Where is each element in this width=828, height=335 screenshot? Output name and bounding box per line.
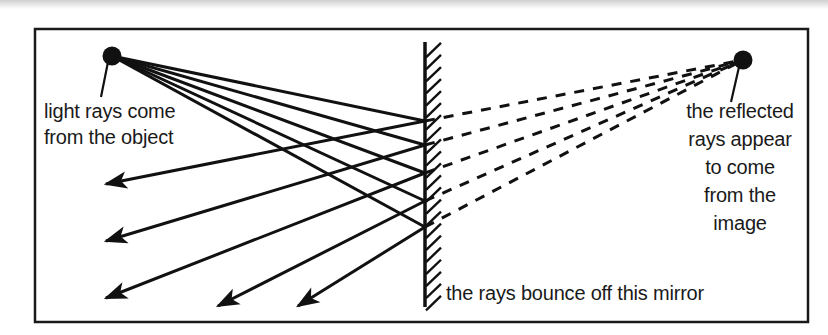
image-label: the reflectedrays appearto comefrom thei… [686,100,793,234]
mirror-hatch [426,67,441,81]
mirror-hatch [426,284,441,298]
mirror-label: the rays bounce off this mirror [446,282,705,304]
mirror-hatch [426,43,441,57]
mirror-hatch [426,296,441,310]
label-line: from the object [44,126,174,148]
object-leader-line [101,62,108,97]
mirror-hatch [426,175,441,189]
mirror-hatching [426,43,441,310]
figure-root: light rays comefrom the object the refle… [0,0,828,335]
mirror [425,42,441,310]
mirror-hatch [426,115,441,129]
mirror-ray-diagram: light rays comefrom the object the refle… [0,0,828,335]
mirror-hatch [426,91,441,105]
mirror-hatch [426,260,441,274]
reflected-ray [298,227,425,306]
label-line: to come [705,156,775,178]
mirror-hatch [426,79,441,93]
mirror-hatch [426,151,441,165]
label-line: from the [704,184,776,206]
object-point-dot [103,47,122,66]
mirror-hatch [426,55,441,69]
reflected-ray-group [106,121,425,306]
mirror-hatch [426,187,441,201]
object-label: light rays comefrom the object [44,100,176,148]
mirror-hatch [426,236,441,250]
image-point-group [731,51,753,103]
image-leader-line [731,67,739,102]
image-point-dot [734,51,753,70]
label-line: the reflected [686,100,793,122]
label-line: rays appear [688,128,792,150]
label-line: light rays come [44,100,176,122]
object-point-group [101,47,122,98]
label-line: image [713,212,767,234]
mirror-hatch [426,272,441,286]
mirror-hatch [426,127,441,141]
mirror-hatch [426,103,441,117]
mirror-hatch [426,248,441,262]
mirror-hatch [426,200,441,214]
